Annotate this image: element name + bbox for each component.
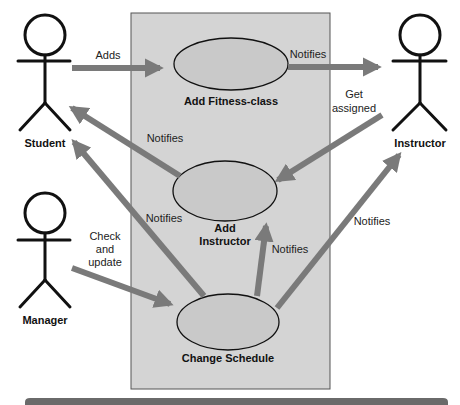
relation-label-assigned: assigned bbox=[332, 102, 376, 114]
use-case-label: Change Schedule bbox=[182, 352, 274, 364]
bottom-bar bbox=[25, 398, 448, 405]
actor-student[interactable] bbox=[18, 15, 70, 130]
relation-label-update: update bbox=[88, 256, 122, 268]
use-case-label-line1: Add bbox=[214, 222, 235, 234]
actor-label-student: Student bbox=[25, 137, 66, 149]
relation-label-notifies: Notifies bbox=[354, 215, 391, 227]
actor-instructor[interactable] bbox=[393, 15, 446, 130]
actor-label-instructor: Instructor bbox=[394, 137, 446, 149]
relation-label-notifies: Notifies bbox=[272, 243, 309, 255]
use-case-change-schedule[interactable]: Change Schedule bbox=[177, 294, 279, 364]
relation-label-notifies: Notifies bbox=[290, 48, 327, 60]
relation-label-and: and bbox=[96, 243, 114, 255]
relation-label-notifies: Notifies bbox=[146, 212, 183, 224]
use-case-label-line2: Instructor bbox=[199, 235, 251, 247]
actor-label-manager: Manager bbox=[22, 314, 68, 326]
use-case-label: Add Fitness-class bbox=[184, 95, 278, 107]
relation-label-adds: Adds bbox=[95, 49, 121, 61]
actor-manager[interactable] bbox=[18, 193, 70, 307]
use-case-add-fitness-class[interactable]: Add Fitness-class bbox=[174, 38, 288, 107]
relation-label-check: Check bbox=[89, 230, 121, 242]
relation-label-notifies: Notifies bbox=[147, 132, 184, 144]
use-case-diagram: Add Fitness-class Add Instructor Change … bbox=[0, 0, 460, 405]
relation-label-get: Get bbox=[345, 88, 363, 100]
